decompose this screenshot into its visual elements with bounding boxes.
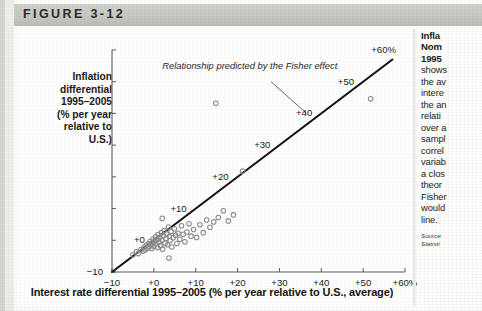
y-axis-tick-label: −10 (63, 266, 103, 277)
side-heading-line: Nom (421, 41, 482, 52)
side-panel-heading: Infla Nom 1995 (421, 30, 482, 64)
y-axis-tick-label: +60% (356, 44, 396, 55)
card-edge-shadow (413, 29, 416, 306)
x-axis-title: Interest rate differential 1995–2005 (% … (14, 286, 410, 298)
side-body-line: the an (421, 99, 482, 111)
side-body-line: would (421, 202, 482, 214)
side-body-line: Fisher (421, 191, 482, 203)
side-body-line: shows (421, 64, 482, 76)
source-line: Statisti (421, 240, 482, 247)
side-body-line: the av (421, 76, 482, 88)
side-text-panel: Infla Nom 1995 shows the av intere the a… (421, 30, 482, 300)
figure-page: FIGURE 3-12 Inflation differential 1995–… (0, 0, 482, 311)
y-axis-tick-label: +20 (189, 171, 229, 182)
side-body-line: line. (421, 214, 482, 226)
side-body-line: variab (421, 156, 482, 168)
side-panel-body: shows the av intere the an relati over a… (421, 64, 482, 225)
figure-label: FIGURE 3-12 (23, 7, 125, 21)
side-body-line: intere (421, 87, 482, 99)
y-axis-tick-label: +50 (314, 76, 354, 87)
y-axis-tick-label: +40 (272, 107, 312, 118)
side-heading-line: Infla (421, 30, 482, 41)
side-heading-line: 1995 (421, 53, 482, 64)
y-axis-tick-label: +30 (230, 139, 270, 150)
side-panel-source: Source: Statisti (421, 232, 482, 247)
side-body-line: correl (421, 145, 482, 157)
side-body-line: a clos (421, 168, 482, 180)
chart-card: Inflation differential 1995–2005 (% per … (17, 29, 413, 306)
side-body-line: theor (421, 179, 482, 191)
chart-annotation: Relationship predicted by the Fisher eff… (162, 60, 337, 71)
side-body-line: over a (421, 122, 482, 134)
side-body-line: relati (421, 110, 482, 122)
y-axis-tick-label: +10 (147, 203, 187, 214)
side-body-line: sampl (421, 133, 482, 145)
y-axis-tick-label: +0 (105, 234, 145, 245)
source-line: Source: (421, 232, 482, 239)
